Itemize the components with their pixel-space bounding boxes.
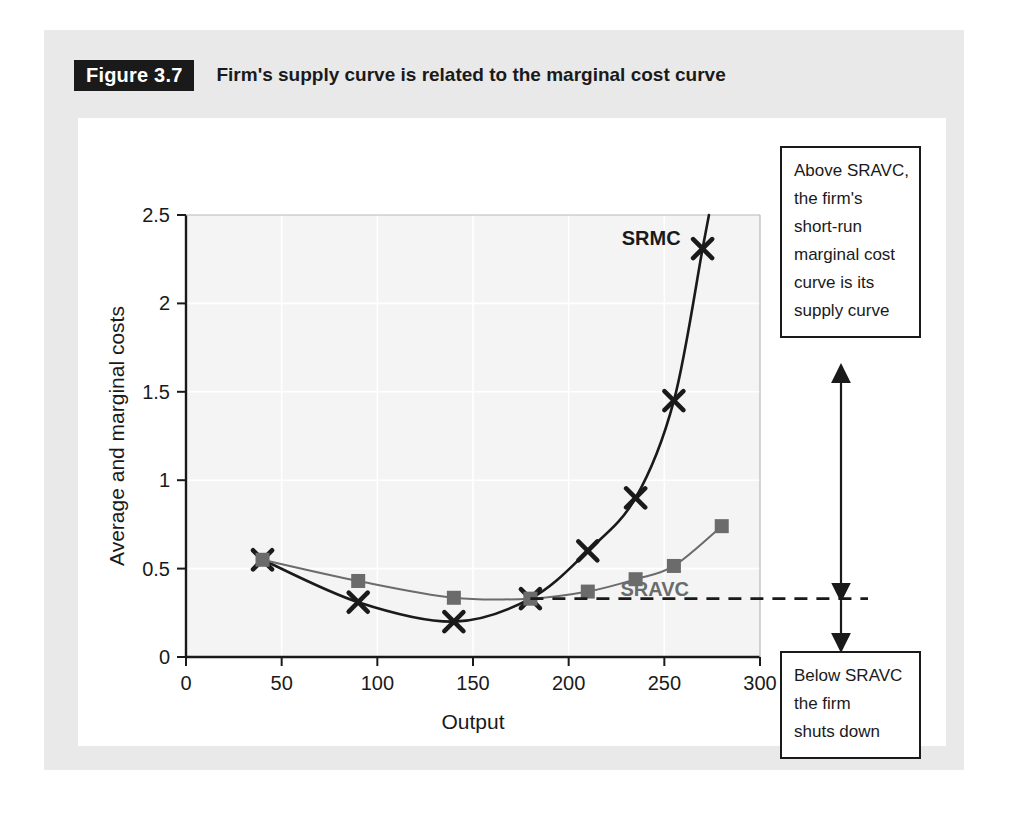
figure-title: Firm's supply curve is related to the ma… [216, 64, 725, 86]
figure-header: Figure 3.7 Firm's supply curve is relate… [74, 58, 726, 92]
figure-page: Figure 3.7 Firm's supply curve is relate… [0, 0, 1022, 828]
figure-white-panel [78, 118, 946, 746]
figure-number-badge: Figure 3.7 [74, 60, 194, 91]
